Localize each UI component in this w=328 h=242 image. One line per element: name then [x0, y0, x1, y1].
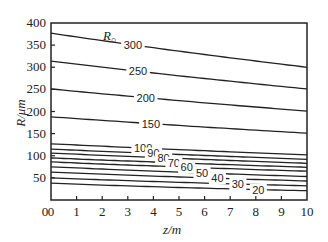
x-tick-label: 3: [125, 204, 132, 219]
x-tick-label: 8: [253, 204, 260, 219]
curve-label-200: 200: [137, 92, 155, 104]
x-tick-label: 5: [176, 204, 183, 219]
chart-canvas: 3002502001501009080706050403020 01234567…: [0, 0, 328, 242]
curve-label-150: 150: [142, 118, 160, 130]
x-tick-label: 1: [73, 204, 80, 219]
x-tick-label: 7: [227, 204, 234, 219]
y-tick-label: 150: [27, 126, 47, 141]
curve-label-20: 20: [252, 184, 264, 196]
curve-r0-100: [51, 144, 307, 155]
curve-r0-300: [51, 33, 307, 67]
curve-r0-200: [51, 89, 307, 111]
y-tick-label: 50: [33, 170, 46, 185]
curve-label-250: 250: [129, 65, 147, 77]
x-tick-label: 2: [99, 204, 106, 219]
x-tick-label: 0: [48, 204, 55, 219]
curve-label-60: 60: [181, 161, 193, 173]
y-tick-label: 200: [27, 104, 47, 119]
curve-label-70: 70: [168, 157, 180, 169]
y-tick-label: 300: [27, 59, 47, 74]
curve-r0-250: [51, 61, 307, 89]
y-tick-label: 100: [27, 148, 47, 163]
y-tick-label: 250: [27, 81, 47, 96]
curve-label-40: 40: [211, 172, 223, 184]
x-axis-title: z/m: [162, 222, 181, 237]
origin-label: 0: [42, 204, 49, 219]
y-tick-label: 400: [27, 15, 47, 30]
curve-label-group: 3002502001501009080706050403020: [121, 39, 267, 196]
curve-label-300: 300: [124, 39, 142, 51]
x-tick-label: 6: [201, 204, 208, 219]
y-axis-title: R/μm: [13, 99, 28, 127]
curve-label-30: 30: [232, 178, 244, 190]
series-parameter-label: R○: [102, 28, 116, 45]
curve-r0-150: [51, 117, 307, 133]
x-tick-label: 4: [150, 204, 157, 219]
x-tick-label: 10: [301, 204, 314, 219]
curve-label-50: 50: [196, 167, 208, 179]
y-tick-label: 350: [27, 37, 47, 52]
x-tick-label: 9: [278, 204, 285, 219]
